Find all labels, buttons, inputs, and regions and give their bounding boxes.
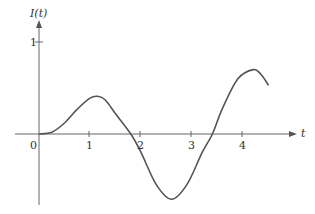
y-tick-label: 1 [30,37,37,48]
x-tick-label-3: 3 [188,140,195,151]
origin-label: 0 [30,140,37,151]
chart-canvas [0,0,315,214]
x-tick-label-4: 4 [239,140,246,151]
y-axis-arrow-icon [36,20,42,28]
x-tick-label-1: 1 [86,140,93,151]
y-axis-label: I(t) [30,8,47,19]
x-tick-label-2: 2 [137,140,144,151]
x-axis-arrow-icon [289,131,297,137]
x-axis-label: t [301,128,305,139]
